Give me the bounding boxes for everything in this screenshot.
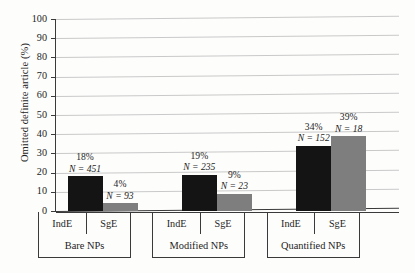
category-label-table: IndESgEBare NPsIndESgEModified NPsIndESg… bbox=[56, 212, 399, 258]
group-label: Quantified NPs bbox=[268, 235, 359, 257]
subgroup-label-inde: IndE bbox=[153, 214, 200, 234]
subgroup-label-sge: SgE bbox=[314, 214, 361, 234]
y-tick-label: 80 bbox=[17, 51, 47, 62]
y-tick-mark bbox=[51, 192, 56, 193]
bar-n-label: N = 451 bbox=[45, 163, 125, 174]
gridline bbox=[56, 93, 399, 97]
y-tick-mark bbox=[51, 38, 56, 39]
group-cell-quantified-nps: IndESgEQuantified NPs bbox=[267, 212, 360, 258]
subgroup-label-inde: IndE bbox=[268, 214, 315, 234]
bar-modified-nps-sge bbox=[217, 194, 252, 211]
bar-chart-figure: Omitted definite article (%) 01020304050… bbox=[0, 0, 415, 273]
plot-area: 010203040506070809010018%N = 4514%N = 93… bbox=[56, 19, 399, 211]
bar-percent-label: 9% bbox=[194, 169, 274, 180]
bar-value-annotation: 18%N = 451 bbox=[45, 151, 125, 174]
bar-quantified-nps-inde bbox=[296, 146, 331, 211]
y-tick-label: 60 bbox=[17, 89, 47, 100]
bar-percent-label: 4% bbox=[80, 178, 160, 189]
bar-percent-label: 39% bbox=[309, 111, 389, 122]
gridline bbox=[56, 35, 399, 39]
gridline bbox=[56, 16, 399, 20]
y-tick-label: 90 bbox=[17, 32, 47, 43]
y-tick-mark bbox=[51, 77, 56, 78]
y-tick-label: 30 bbox=[17, 147, 47, 158]
subgroup-label-inde: IndE bbox=[39, 214, 86, 234]
bar-value-annotation: 39%N = 18 bbox=[309, 111, 389, 134]
group-cell-bare-nps: IndESgEBare NPs bbox=[38, 212, 131, 258]
y-tick-label: 10 bbox=[17, 185, 47, 196]
y-tick-mark bbox=[51, 19, 56, 20]
group-label: Modified NPs bbox=[153, 235, 244, 257]
bar-percent-label: 19% bbox=[159, 150, 239, 161]
bar-n-label: N = 23 bbox=[194, 180, 274, 191]
bar-quantified-nps-sge bbox=[331, 136, 366, 211]
subgroup-label-sge: SgE bbox=[86, 214, 133, 234]
bar-value-annotation: 9%N = 23 bbox=[194, 169, 274, 192]
y-tick-mark bbox=[51, 134, 56, 135]
bar-percent-label: 18% bbox=[45, 151, 125, 162]
gridline bbox=[56, 73, 399, 77]
bar-value-annotation: 4%N = 93 bbox=[80, 178, 160, 201]
y-tick-label: 70 bbox=[17, 70, 47, 81]
gridline bbox=[56, 54, 399, 58]
bar-bare-nps-sge bbox=[103, 203, 138, 211]
y-tick-mark bbox=[51, 115, 56, 116]
y-tick-label: 20 bbox=[17, 166, 47, 177]
y-tick-label: 50 bbox=[17, 109, 47, 120]
group-cell-modified-nps: IndESgEModified NPs bbox=[152, 212, 245, 258]
y-tick-label: 100 bbox=[17, 13, 47, 24]
subgroup-label-sge: SgE bbox=[200, 214, 247, 234]
bar-n-label: N = 18 bbox=[309, 123, 389, 134]
group-label: Bare NPs bbox=[39, 235, 130, 257]
y-tick-mark bbox=[51, 57, 56, 58]
y-tick-mark bbox=[51, 96, 56, 97]
y-tick-label: 40 bbox=[17, 128, 47, 139]
bar-n-label: N = 93 bbox=[80, 190, 160, 201]
